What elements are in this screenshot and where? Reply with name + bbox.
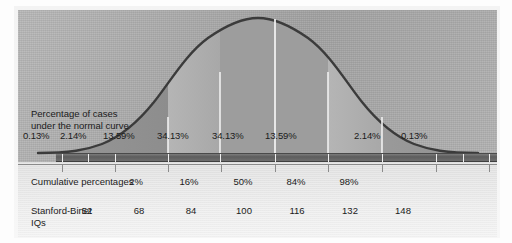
axis-tick-4 <box>221 164 222 172</box>
axis-tick-2 <box>115 164 116 172</box>
cumulative-percentages-label: Cumulative percentages <box>31 176 133 188</box>
figure-normal-curve: Percentage of cases under the normal cur… <box>0 0 512 243</box>
segment-label-4: 34.13% <box>212 130 244 141</box>
segment-label-1: 2.14% <box>60 130 86 141</box>
axis-tick-5 <box>275 164 276 172</box>
axis-tick-6 <box>328 164 329 172</box>
axis-tick-1 <box>62 164 63 172</box>
axis-tick-3 <box>168 164 169 172</box>
cumulative-value-0: 2% <box>129 176 143 187</box>
baseline-bar <box>56 153 497 162</box>
axis-tick-7 <box>382 164 383 172</box>
axis-tick-9 <box>489 164 490 172</box>
cumulative-value-3: 84% <box>286 176 305 187</box>
cumulative-value-4: 98% <box>339 176 358 187</box>
segment-label-3: 34.13% <box>157 130 189 141</box>
segment-label-0: 0.13% <box>23 130 49 141</box>
segment-label-5: 13.59% <box>265 130 297 141</box>
segment-label-7: 0.13% <box>401 130 427 141</box>
iq-value-2: 84 <box>186 205 197 216</box>
iq-value-5: 132 <box>342 205 358 216</box>
iq-value-6: 148 <box>395 205 411 216</box>
caption-line-1: Percentage of cases <box>31 108 129 120</box>
iq-value-4: 116 <box>289 205 304 216</box>
segment-label-6: 2.14% <box>354 130 380 141</box>
iq-label-line-2: IQs <box>31 217 92 229</box>
segment-label-2: 13.59% <box>103 130 135 141</box>
iq-value-1: 68 <box>134 205 145 216</box>
iq-value-0: 52 <box>82 205 93 216</box>
axis-line <box>18 164 497 165</box>
cumulative-value-1: 16% <box>179 176 198 187</box>
iq-value-3: 100 <box>236 205 252 216</box>
cumulative-value-2: 50% <box>233 176 252 187</box>
axis-tick-8 <box>436 164 437 172</box>
